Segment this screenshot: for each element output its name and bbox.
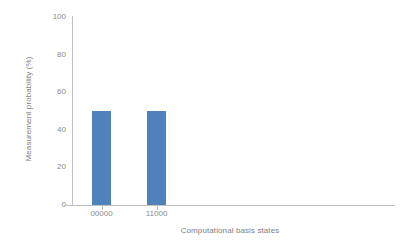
- y-axis-title: Measurement probability (%): [22, 15, 36, 203]
- y-axis-tick-label: 40: [40, 126, 66, 134]
- y-axis-tick-label: 100: [40, 13, 66, 21]
- y-axis-tick-labels: 020406080100: [38, 0, 66, 248]
- x-axis-tick-label: 11000: [127, 209, 187, 219]
- plot-area: [72, 17, 395, 205]
- x-axis-title-text: Computational basis states: [125, 226, 280, 235]
- x-axis-tick-label: 00000: [72, 209, 132, 219]
- bar: [147, 111, 166, 205]
- y-axis-tick-label: 80: [40, 51, 66, 59]
- x-axis-title: Computational basis states: [0, 226, 404, 235]
- x-axis-line: [64, 205, 395, 206]
- bar-chart: Measurement probability (%) 020406080100…: [0, 0, 404, 248]
- bar: [92, 111, 111, 205]
- y-axis-tick-label: 20: [40, 163, 66, 171]
- y-axis-tick-label: 60: [40, 88, 66, 96]
- y-axis-tick-label: 0: [40, 201, 66, 209]
